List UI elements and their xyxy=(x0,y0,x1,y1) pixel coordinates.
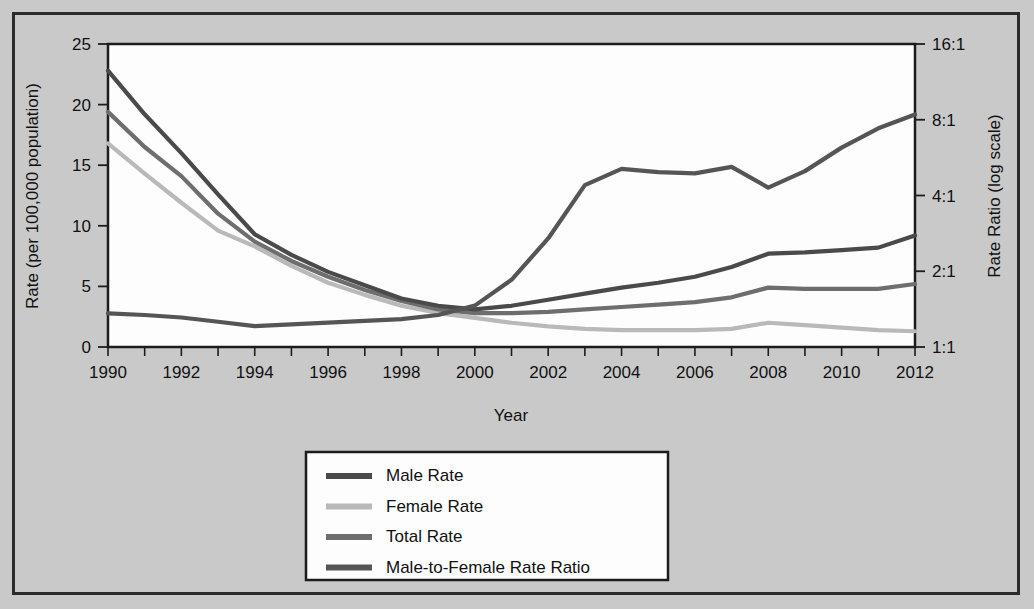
x-axis-ticks xyxy=(108,347,915,356)
x-tick-label: 2002 xyxy=(529,363,567,382)
y-axis-left-ticks xyxy=(98,44,108,347)
x-axis-tick-labels: 1990199219941996199820002002200420062008… xyxy=(89,363,934,382)
chart-legend[interactable]: Male RateFemale RateTotal RateMale-to-Fe… xyxy=(306,452,668,580)
x-tick-label: 1990 xyxy=(89,363,127,382)
x-tick-label: 2006 xyxy=(676,363,714,382)
y-right-tick-label: 4:1 xyxy=(932,187,956,206)
x-axis-title: Year xyxy=(494,406,529,425)
y-axis-left-title: Rate (per 100,000 population) xyxy=(23,83,42,309)
y-right-tick-label: 16:1 xyxy=(932,35,965,54)
plot-area-background xyxy=(108,44,915,347)
plot-background-group xyxy=(108,44,915,347)
legend-label: Female Rate xyxy=(386,497,483,516)
y-axis-right-tick-labels: 1:12:14:18:116:1 xyxy=(932,35,965,357)
y-axis-left-tick-labels: 0510152025 xyxy=(72,35,91,357)
y-right-tick-label: 8:1 xyxy=(932,111,956,130)
y-left-tick-label: 25 xyxy=(72,35,91,54)
x-tick-label: 1992 xyxy=(162,363,200,382)
y-left-tick-label: 0 xyxy=(82,338,91,357)
figure-container: 1990199219941996199820002002200420062008… xyxy=(0,0,1034,609)
x-tick-label: 1998 xyxy=(383,363,421,382)
x-tick-label: 1994 xyxy=(236,363,274,382)
x-tick-label: 2012 xyxy=(896,363,934,382)
y-axis-right-title: Rate Ratio (log scale) xyxy=(985,114,1004,277)
legend-label: Total Rate xyxy=(386,527,463,546)
y-right-tick-label: 1:1 xyxy=(932,338,956,357)
x-tick-label: 2008 xyxy=(749,363,787,382)
y-right-tick-label: 2:1 xyxy=(932,262,956,281)
y-axis-right-ticks xyxy=(915,44,925,347)
x-tick-label: 2000 xyxy=(456,363,494,382)
legend-label: Male Rate xyxy=(386,466,463,485)
line-chart: 1990199219941996199820002002200420062008… xyxy=(0,0,1034,609)
y-left-tick-label: 10 xyxy=(72,217,91,236)
y-left-tick-label: 20 xyxy=(72,96,91,115)
x-tick-label: 1996 xyxy=(309,363,347,382)
y-left-tick-label: 5 xyxy=(82,277,91,296)
x-tick-label: 2010 xyxy=(823,363,861,382)
y-left-tick-label: 15 xyxy=(72,156,91,175)
legend-label: Male-to-Female Rate Ratio xyxy=(386,558,590,577)
x-tick-label: 2004 xyxy=(603,363,641,382)
